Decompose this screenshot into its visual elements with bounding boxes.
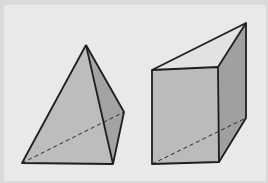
prism-front-face: [152, 67, 219, 164]
triangular-prism: [152, 23, 246, 164]
tetrahedron: [22, 45, 124, 164]
figure: [0, 0, 268, 183]
geometry-diagram: [0, 0, 268, 183]
